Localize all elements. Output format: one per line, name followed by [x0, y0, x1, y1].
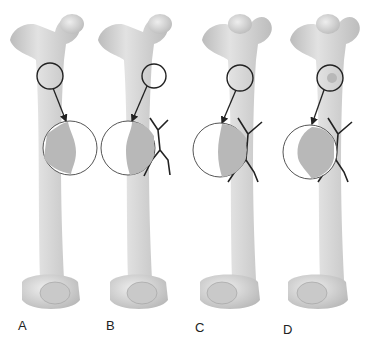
panel-label-c: C	[195, 320, 204, 335]
panel-label-d: D	[283, 322, 292, 337]
femur-c	[193, 14, 272, 309]
femur-diagram	[0, 0, 384, 344]
panel-label-b: B	[106, 318, 115, 333]
femur-a	[10, 14, 97, 309]
femur-d	[283, 14, 360, 309]
panel-label-a: A	[18, 318, 27, 333]
femur-b	[98, 14, 172, 309]
